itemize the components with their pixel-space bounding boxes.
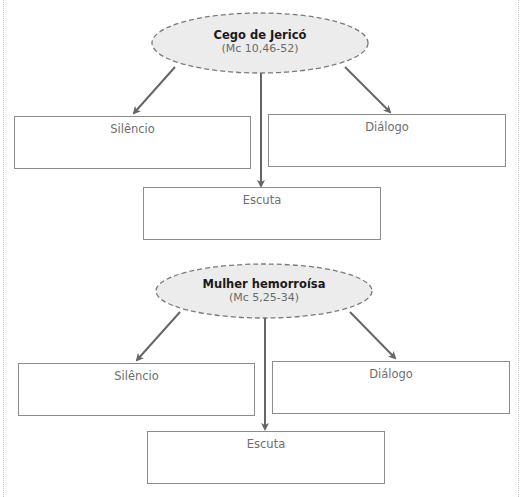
center-node-mulher: Mulher hemorroísa (Mc 5,25-34) bbox=[164, 277, 364, 305]
answer-box-dialogo-2[interactable]: Diálogo bbox=[272, 361, 510, 414]
node-reference: (Mc 10,46-52) bbox=[160, 42, 360, 56]
answer-box-escuta-1[interactable]: Escuta bbox=[143, 187, 381, 240]
box-label: Diálogo bbox=[273, 367, 509, 381]
diagram-graphics bbox=[0, 0, 522, 497]
node-title: Mulher hemorroísa bbox=[164, 277, 364, 291]
center-node-cego: Cego de Jericó (Mc 10,46-52) bbox=[160, 28, 360, 56]
answer-box-silencio-2[interactable]: Silêncio bbox=[18, 363, 255, 416]
box-label: Escuta bbox=[144, 193, 380, 207]
box-label: Escuta bbox=[148, 437, 384, 451]
answer-box-escuta-2[interactable]: Escuta bbox=[147, 431, 385, 484]
box-label: Diálogo bbox=[269, 120, 505, 134]
arrow-to-dialogo-2 bbox=[350, 312, 395, 358]
box-label: Silêncio bbox=[15, 122, 250, 136]
node-reference: (Mc 5,25-34) bbox=[164, 291, 364, 305]
arrow-to-silencio-1 bbox=[134, 67, 175, 113]
arrow-to-dialogo-1 bbox=[345, 67, 390, 112]
arrow-to-silencio-2 bbox=[137, 312, 180, 360]
answer-box-dialogo-1[interactable]: Diálogo bbox=[268, 114, 506, 167]
answer-box-silencio-1[interactable]: Silêncio bbox=[14, 116, 251, 169]
node-title: Cego de Jericó bbox=[160, 28, 360, 42]
box-label: Silêncio bbox=[19, 369, 254, 383]
